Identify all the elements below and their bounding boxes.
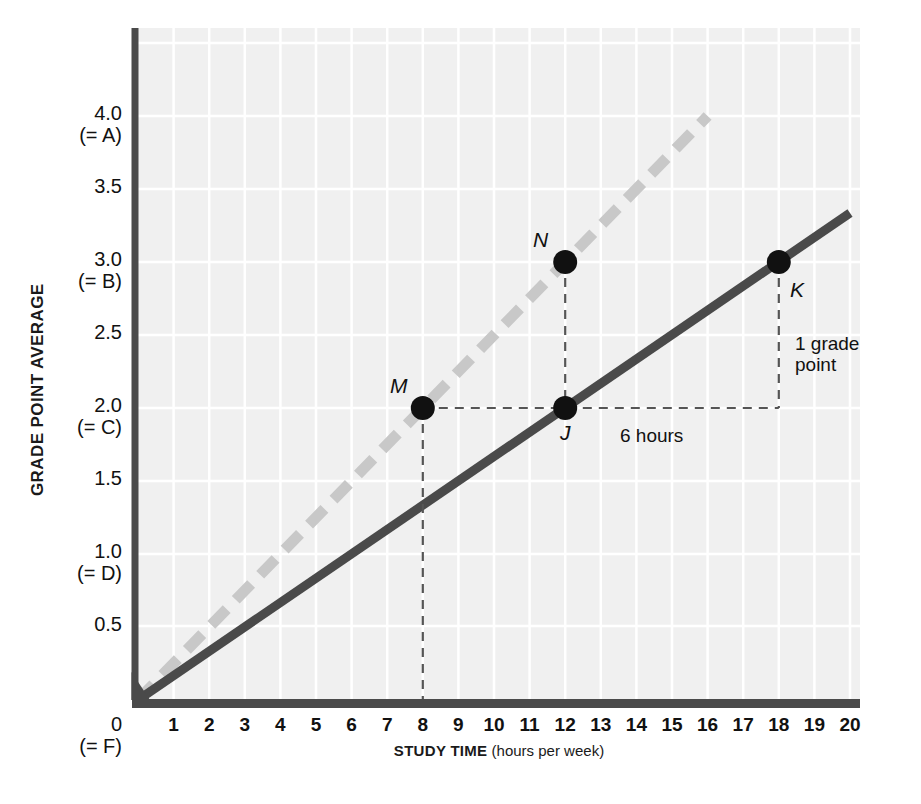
y-tick-1.0-grade: (= D): [30, 563, 122, 585]
point-label-j: J: [560, 421, 571, 445]
y-tick-4.0: 4.0 (= A): [30, 103, 122, 146]
point-label-k: K: [790, 278, 804, 302]
y-tick-1.0: 1.0 (= D): [30, 541, 122, 584]
x-tick-11: 11: [520, 714, 540, 736]
y-tick-3.0-value: 3.0: [94, 248, 122, 270]
run-annotation: 6 hours: [620, 425, 683, 446]
chart-canvas: [0, 0, 921, 804]
chart-figure: GRADE POINT AVERAGE 4.0 (= A) 3.5 3.0 (=…: [0, 0, 921, 804]
x-tick-14: 14: [626, 714, 647, 736]
y-tick-3.5-value: 3.5: [94, 175, 122, 197]
y-tick-1.5: 1.5: [30, 468, 122, 490]
data-point-j[interactable]: [553, 396, 577, 420]
x-tick-6: 6: [346, 714, 357, 736]
y-tick-3.5: 3.5: [30, 176, 122, 198]
y-tick-3.0-grade: (= B): [30, 271, 122, 293]
y-tick-0-grade: (= F): [30, 736, 122, 758]
rise-annotation: 1 grade point: [795, 333, 885, 376]
x-tick-18: 18: [768, 714, 789, 736]
y-tick-4.0-value: 4.0: [94, 102, 122, 124]
x-tick-7: 7: [382, 714, 393, 736]
x-tick-9: 9: [453, 714, 464, 736]
y-tick-2.5: 2.5: [30, 322, 122, 344]
x-tick-15: 15: [661, 714, 682, 736]
y-tick-2.0-grade: (= C): [30, 417, 122, 439]
x-tick-12: 12: [555, 714, 576, 736]
y-tick-3.0: 3.0 (= B): [30, 249, 122, 292]
x-tick-19: 19: [804, 714, 825, 736]
x-tick-17: 17: [733, 714, 754, 736]
x-tick-16: 16: [697, 714, 718, 736]
point-label-n: N: [533, 228, 548, 252]
x-tick-20: 20: [839, 714, 860, 736]
x-tick-3: 3: [240, 714, 251, 736]
x-axis-title-bold: STUDY TIME: [394, 742, 488, 759]
point-label-m: M: [390, 374, 408, 398]
data-point-m[interactable]: [411, 396, 435, 420]
y-tick-1.5-value: 1.5: [94, 467, 122, 489]
x-axis-title: STUDY TIME (hours per week): [138, 742, 860, 759]
y-tick-0.5-value: 0.5: [94, 613, 122, 635]
y-tick-2.0: 2.0 (= C): [30, 395, 122, 438]
x-tick-2: 2: [204, 714, 215, 736]
x-tick-13: 13: [590, 714, 611, 736]
x-tick-10: 10: [483, 714, 504, 736]
y-tick-0: 0 (= F): [30, 714, 122, 757]
x-tick-1: 1: [168, 714, 179, 736]
x-axis-title-rest: (hours per week): [487, 742, 604, 759]
y-tick-1.0-value: 1.0: [94, 540, 122, 562]
y-tick-0-value: 0: [111, 713, 122, 735]
plot-background: [138, 28, 860, 700]
x-tick-5: 5: [311, 714, 322, 736]
x-tick-4: 4: [275, 714, 286, 736]
data-point-k[interactable]: [767, 250, 791, 274]
y-tick-2.0-value: 2.0: [94, 394, 122, 416]
x-tick-8: 8: [418, 714, 429, 736]
y-tick-2.5-value: 2.5: [94, 321, 122, 343]
y-tick-0.5: 0.5: [30, 614, 122, 636]
data-point-n[interactable]: [553, 250, 577, 274]
y-tick-4.0-grade: (= A): [30, 125, 122, 147]
